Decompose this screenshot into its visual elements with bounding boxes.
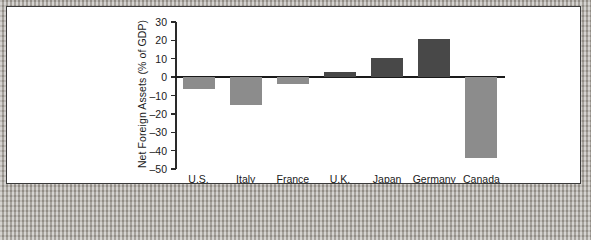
bar-us xyxy=(183,77,215,89)
x-axis-label: U.K. xyxy=(330,173,350,184)
y-axis-tick-label: –10 xyxy=(149,90,167,102)
y-axis-tick xyxy=(171,58,176,59)
x-axis-label: Canada xyxy=(463,173,500,184)
figure-frame: Net Foreign Assets (% of GDP) 3020100–10… xyxy=(6,6,581,184)
x-axis-labels: U.S.ItalyFranceU.K.JapanGermanyCanada xyxy=(175,173,505,184)
bar-canada xyxy=(465,77,497,158)
y-axis-tick-label: –30 xyxy=(149,126,167,138)
y-axis-tick xyxy=(171,40,176,41)
x-axis-label: U.S. xyxy=(188,173,208,184)
bar-italy xyxy=(230,77,262,105)
y-axis-tick xyxy=(171,95,176,96)
y-axis-tick xyxy=(171,150,176,151)
y-axis-tick-label: –40 xyxy=(149,145,167,157)
y-axis-tick-label: 20 xyxy=(155,34,167,46)
x-axis-label: Italy xyxy=(236,173,255,184)
y-axis-tick xyxy=(171,168,176,169)
x-axis-label: Japan xyxy=(373,173,402,184)
bar-france xyxy=(277,77,309,84)
axis-box: 3020100–10–20–30–40–50 xyxy=(175,22,505,169)
y-axis-title-container: Net Foreign Assets (% of GDP) xyxy=(119,19,135,169)
y-axis-tick-label: –20 xyxy=(149,108,167,120)
y-axis-title: Net Foreign Assets (% of GDP) xyxy=(136,19,148,169)
chart-plot-area: Net Foreign Assets (% of GDP) 3020100–10… xyxy=(7,7,580,183)
y-axis-tick-label: –50 xyxy=(149,163,167,175)
y-axis-tick xyxy=(171,132,176,133)
y-axis-tick-label: 10 xyxy=(155,53,167,65)
x-axis-label: Germany xyxy=(413,173,456,184)
y-axis-tick xyxy=(171,113,176,114)
bar-germany xyxy=(418,39,450,78)
y-axis-tick-label: 30 xyxy=(155,16,167,28)
x-axis-label: France xyxy=(277,173,310,184)
bar-uk xyxy=(324,72,356,78)
bar-japan xyxy=(371,58,403,77)
y-axis-tick xyxy=(171,21,176,22)
y-axis-tick-label: 0 xyxy=(161,71,167,83)
